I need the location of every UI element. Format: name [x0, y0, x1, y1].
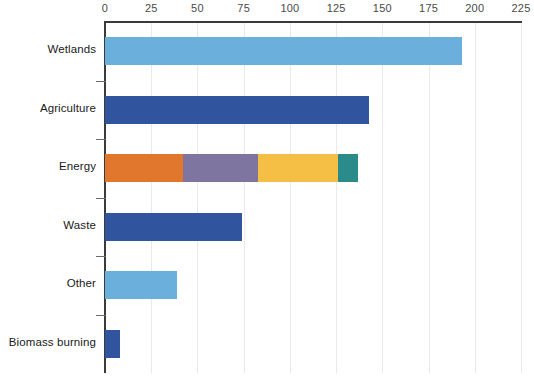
category-label: Agriculture	[0, 102, 96, 114]
bar-segment	[105, 37, 462, 65]
x-tick-label: 200	[465, 2, 484, 14]
x-tick-label: 0	[102, 2, 108, 14]
x-tick-label: 225	[512, 2, 531, 14]
x-tick-label: 125	[327, 2, 346, 14]
bar-segment	[105, 271, 177, 299]
x-tick-label: 100	[280, 2, 299, 14]
y-axis-tick	[96, 315, 106, 316]
y-axis-tick	[96, 256, 106, 257]
gridline	[521, 22, 522, 373]
bar	[105, 330, 120, 358]
gridline	[290, 22, 291, 373]
y-axis-tick	[96, 81, 106, 82]
bar	[105, 154, 358, 182]
x-tick-label: 25	[145, 2, 158, 14]
x-tick-label: 75	[237, 2, 250, 14]
category-label: Biomass burning	[0, 336, 96, 348]
horizontal-bar-chart: 0255075100125150175200225 WetlandsAgricu…	[0, 0, 534, 377]
gridline	[197, 22, 198, 373]
gridline	[475, 22, 476, 373]
bar-segment	[338, 154, 358, 182]
x-axis-line	[104, 21, 522, 23]
bar-segment	[105, 213, 242, 241]
y-axis-tick	[96, 139, 106, 140]
gridline	[336, 22, 337, 373]
category-label: Other	[0, 277, 96, 289]
x-tick-label: 150	[373, 2, 392, 14]
category-label: Wetlands	[0, 43, 96, 55]
category-label: Energy	[0, 160, 96, 172]
bar-segment	[183, 154, 259, 182]
x-tick-label: 175	[419, 2, 438, 14]
gridline	[151, 22, 152, 373]
bar-segment	[105, 154, 183, 182]
bar	[105, 96, 369, 124]
bar	[105, 213, 242, 241]
gridline	[429, 22, 430, 373]
category-label: Waste	[0, 219, 96, 231]
bar-segment	[105, 330, 120, 358]
bar-segment	[105, 96, 369, 124]
bar-segment	[258, 154, 338, 182]
bar	[105, 37, 462, 65]
gridline	[382, 22, 383, 373]
x-tick-label: 50	[191, 2, 204, 14]
y-axis-tick	[96, 198, 106, 199]
plot-area	[105, 22, 521, 373]
gridline	[244, 22, 245, 373]
bar	[105, 271, 177, 299]
